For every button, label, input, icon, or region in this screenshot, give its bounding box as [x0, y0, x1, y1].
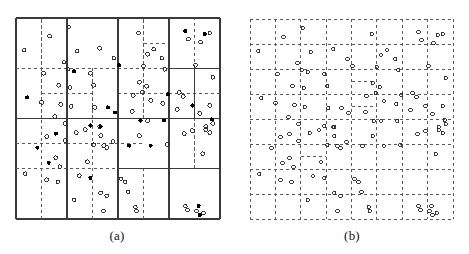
data-point-open: [290, 180, 294, 184]
data-point-open: [347, 111, 351, 115]
data-point-open: [259, 96, 263, 100]
data-point-open: [149, 99, 153, 103]
data-point-open: [382, 144, 386, 148]
data-point-open: [308, 131, 312, 135]
data-point-open: [45, 135, 49, 139]
data-point-open: [59, 103, 63, 107]
data-point-open: [441, 104, 445, 108]
data-point-open: [257, 172, 261, 176]
data-point-open: [68, 85, 72, 89]
data-point-open: [133, 205, 137, 209]
data-point-open: [339, 106, 343, 110]
data-point-open: [74, 131, 78, 135]
data-point-open: [279, 178, 283, 182]
data-point-open: [331, 47, 335, 51]
data-point-open: [360, 190, 364, 194]
data-point-open: [338, 194, 342, 198]
data-point-filled: [127, 144, 131, 148]
data-point-filled: [54, 131, 58, 135]
data-point-open: [293, 103, 297, 107]
data-point-open: [417, 204, 421, 208]
data-point-open: [417, 30, 421, 34]
data-point-open: [288, 156, 292, 160]
data-point-open: [22, 48, 26, 52]
data-point-filled: [117, 63, 121, 67]
panel-a-plot: [0, 0, 234, 254]
data-point-open: [134, 209, 138, 213]
data-point-open: [291, 84, 295, 88]
data-point-filled: [162, 118, 166, 122]
panel-b-caption: (b): [235, 228, 469, 244]
data-point-open: [102, 209, 106, 213]
data-point-filled: [106, 105, 110, 109]
data-point-open: [202, 211, 206, 215]
data-point-open: [322, 176, 326, 180]
open-point-group: [256, 26, 448, 217]
data-point-open: [351, 64, 355, 68]
data-point-filled: [203, 32, 207, 36]
data-point-open: [370, 32, 374, 36]
data-point-open: [138, 134, 142, 138]
data-point-open: [444, 122, 448, 126]
data-point-open: [408, 108, 412, 112]
data-point-open: [432, 41, 436, 45]
data-point-open: [137, 31, 141, 35]
panel-b-plot: [235, 0, 469, 254]
panel-b: (b): [235, 0, 469, 254]
data-point-open: [83, 128, 87, 132]
data-point-open: [98, 46, 102, 50]
data-point-open: [296, 61, 300, 65]
data-point-open: [45, 178, 49, 182]
data-point-open: [361, 144, 365, 148]
data-point-filled: [99, 124, 103, 128]
figure-root: (a) (b): [0, 0, 469, 254]
data-point-open: [393, 57, 397, 61]
data-point-open: [177, 90, 181, 94]
data-point-open: [138, 80, 142, 84]
panel-a-caption: (a): [0, 228, 234, 244]
data-point-filled: [47, 161, 51, 165]
data-point-open: [282, 35, 286, 39]
data-point-open: [297, 122, 301, 126]
data-point-open: [416, 132, 420, 136]
data-point-open: [185, 208, 189, 212]
data-point-open: [379, 119, 383, 123]
data-point-open: [396, 68, 400, 72]
data-point-open: [77, 174, 81, 178]
data-point-open: [163, 67, 167, 71]
data-point-open: [198, 112, 202, 116]
data-point-open: [69, 105, 73, 109]
data-point-open: [119, 177, 123, 181]
data-point-open: [317, 128, 321, 132]
data-point-open: [105, 194, 109, 198]
data-point-open: [368, 209, 372, 213]
data-point-open: [297, 139, 301, 143]
data-point-open: [93, 106, 97, 110]
data-point-open: [303, 105, 307, 109]
data-point-open: [208, 31, 212, 35]
data-point-open: [99, 191, 103, 195]
data-point-open: [276, 72, 280, 76]
data-point-filled: [138, 118, 142, 122]
data-point-open: [346, 57, 350, 61]
data-point-open: [288, 132, 292, 136]
data-point-open: [301, 26, 305, 30]
data-point-open: [63, 122, 67, 126]
data-point-open: [269, 146, 273, 150]
data-point-open: [99, 134, 103, 138]
data-point-open: [435, 211, 439, 215]
data-point-open: [428, 209, 432, 213]
panel-a: (a): [0, 0, 234, 254]
data-point-open: [211, 122, 215, 126]
data-point-open: [42, 71, 46, 75]
data-point-open: [175, 108, 179, 112]
data-point-open: [105, 146, 109, 150]
data-point-open: [54, 156, 58, 160]
data-point-open: [146, 119, 150, 123]
data-point-open: [67, 25, 71, 29]
data-point-open: [186, 37, 190, 41]
data-point-open: [86, 160, 90, 164]
filled-point-group: [25, 29, 214, 217]
data-point-open: [335, 209, 339, 213]
data-point-open: [57, 83, 61, 87]
